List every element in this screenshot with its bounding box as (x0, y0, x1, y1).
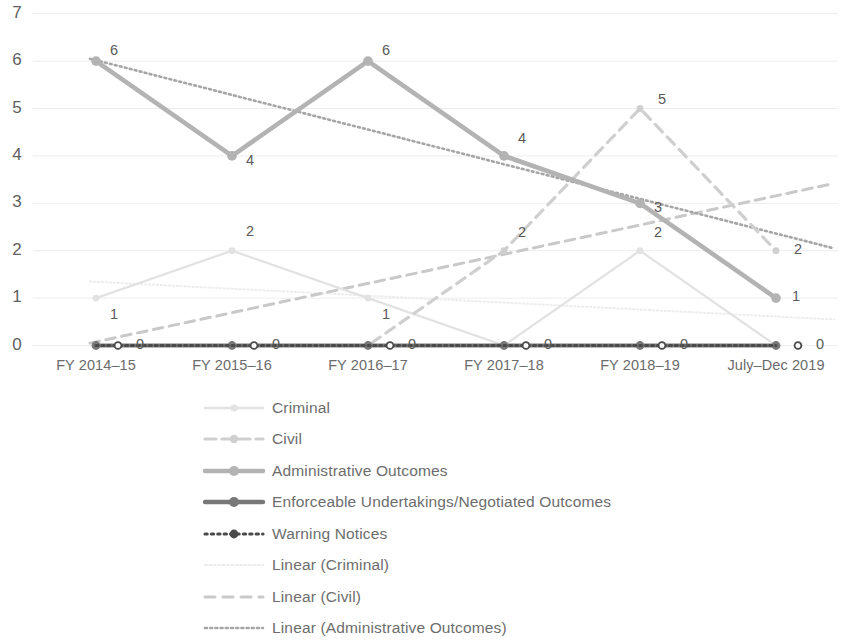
point-label-criminal: 1 (110, 306, 118, 322)
point-label-administrative-outcomes: 1 (792, 288, 800, 304)
legend-swatch-linear-administrative-outcomes-icon (205, 619, 263, 637)
y-axis-tick-label: 5 (0, 98, 22, 118)
data-point-criminal (637, 247, 644, 254)
data-point-administrative-outcomes (227, 151, 237, 161)
legend-item-linear-administrative-outcomes[interactable]: Linear (Administrative Outcomes) (205, 613, 825, 642)
y-axis-tick-label: 1 (0, 287, 22, 307)
point-label-administrative-outcomes: 4 (246, 152, 254, 168)
legend-item-label: Linear (Criminal) (272, 556, 389, 574)
data-point-warning-notices (659, 342, 666, 349)
legend-swatch-criminal-icon (205, 399, 263, 417)
legend-item-label: Criminal (272, 399, 330, 417)
data-point-warning-notices (251, 342, 258, 349)
legend-swatch-enforceable-undertakings-icon (205, 493, 263, 511)
point-label-administrative-outcomes: 6 (382, 42, 390, 58)
point-label-zero: 0 (136, 336, 144, 352)
data-point-warning-notices (115, 342, 122, 349)
data-point-administrative-outcomes (91, 56, 101, 66)
data-point-administrative-outcomes (363, 56, 373, 66)
legend-swatch-linear-civil-icon (205, 588, 263, 606)
point-label-zero: 0 (680, 336, 688, 352)
y-axis-tick-label: 6 (0, 50, 22, 70)
legend-item-label: Administrative Outcomes (272, 462, 448, 480)
point-label-zero: 0 (544, 336, 552, 352)
legend-item-label: Warning Notices (272, 525, 387, 543)
legend-swatch-administrative-outcomes-icon (205, 462, 263, 480)
plot-area: 01234567 FY 2014–15FY 2015–16FY 2016–17F… (0, 0, 843, 380)
y-axis-tick-label: 4 (0, 145, 22, 165)
data-point-civil (501, 247, 508, 254)
data-point-civil (773, 247, 780, 254)
legend-item-civil[interactable]: Civil (205, 424, 825, 456)
legend-item-label: Civil (272, 430, 302, 448)
chart-root: 01234567 FY 2014–15FY 2015–16FY 2016–17F… (0, 0, 843, 642)
data-point-warning-notices (523, 342, 530, 349)
data-point-warning-notices (795, 342, 802, 349)
point-label-zero: 0 (816, 336, 824, 352)
point-label-criminal: 2 (654, 224, 662, 240)
data-point-administrative-outcomes (635, 198, 645, 208)
trendline-linear-criminal (90, 282, 834, 320)
legend-item-label: Linear (Administrative Outcomes) (272, 619, 507, 637)
chart-legend: CriminalCivilAdministrative OutcomesEnfo… (205, 392, 825, 642)
legend-item-label: Linear (Civil) (272, 588, 361, 606)
x-axis-tick-label: July–Dec 2019 (696, 357, 843, 373)
data-point-criminal (365, 295, 372, 302)
legend-item-enforceable-undertakings[interactable]: Enforceable Undertakings/Negotiated Outc… (205, 487, 825, 519)
legend-item-administrative-outcomes[interactable]: Administrative Outcomes (205, 455, 825, 487)
legend-swatch-civil-icon (205, 430, 263, 448)
chart-canvas (0, 0, 843, 380)
point-label-administrative-outcomes: 3 (654, 199, 662, 215)
point-label-civil: 2 (794, 241, 802, 257)
data-point-administrative-outcomes (499, 151, 509, 161)
point-label-civil: 2 (518, 224, 526, 240)
legend-swatch-warning-notices-icon (205, 525, 263, 543)
legend-item-criminal[interactable]: Criminal (205, 392, 825, 424)
y-axis-tick-label: 7 (0, 3, 22, 23)
point-label-civil: 5 (658, 91, 666, 107)
point-label-criminal: 1 (382, 306, 390, 322)
data-point-criminal (93, 295, 100, 302)
legend-item-linear-criminal[interactable]: Linear (Criminal) (205, 550, 825, 582)
legend-item-warning-notices[interactable]: Warning Notices (205, 518, 825, 550)
y-axis-tick-label: 2 (0, 240, 22, 260)
point-label-criminal: 2 (246, 223, 254, 239)
y-axis-tick-label: 3 (0, 192, 22, 212)
point-label-zero: 0 (408, 336, 416, 352)
legend-item-linear-civil[interactable]: Linear (Civil) (205, 581, 825, 613)
legend-swatch-linear-criminal-icon (205, 556, 263, 574)
trendline-linear-administrative-outcomes (90, 59, 834, 249)
data-point-civil (637, 105, 644, 112)
data-point-criminal (229, 247, 236, 254)
data-point-warning-notices (387, 342, 394, 349)
y-axis-tick-label: 0 (0, 335, 22, 355)
point-label-administrative-outcomes: 6 (110, 42, 118, 58)
legend-item-label: Enforceable Undertakings/Negotiated Outc… (272, 493, 611, 511)
point-label-administrative-outcomes: 4 (518, 130, 526, 146)
data-point-administrative-outcomes (771, 293, 781, 303)
point-label-zero: 0 (272, 336, 280, 352)
